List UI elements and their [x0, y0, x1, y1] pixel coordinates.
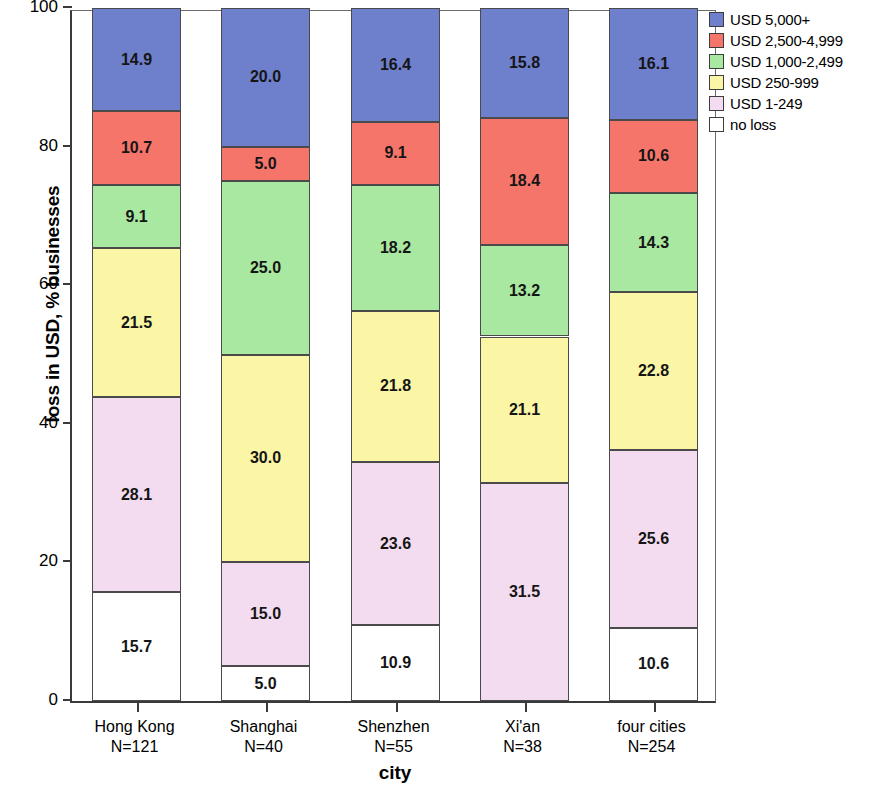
bar-segment[interactable]: 22.8: [609, 292, 698, 450]
legend-label: USD 1-249: [730, 95, 802, 112]
bar-segment-label: 9.1: [125, 208, 147, 226]
bar-segment[interactable]: 16.4: [351, 8, 440, 122]
bar-segment[interactable]: 31.5: [480, 483, 569, 701]
legend-label: USD 5,000+: [730, 11, 810, 28]
bar-segment-label: 30.0: [250, 449, 281, 467]
bar-segment[interactable]: 5.0: [221, 666, 310, 701]
y-axis-title: loss in USD, % businesses: [42, 154, 66, 454]
bar-segment-label: 14.9: [121, 51, 152, 69]
bar-segment[interactable]: 15.0: [221, 562, 310, 666]
y-axis-tick-label: 40: [39, 413, 58, 433]
bar-segment[interactable]: 15.8: [480, 8, 569, 117]
x-axis-label-count: N=254: [572, 737, 732, 757]
legend-item[interactable]: USD 1,000-2,499: [709, 51, 867, 72]
bar-segment[interactable]: 28.1: [92, 397, 181, 592]
stacked-bar: 15.728.121.59.110.714.9: [92, 8, 181, 701]
bar-segment[interactable]: 21.1: [480, 337, 569, 483]
legend-swatch: [709, 96, 724, 111]
bar-segment-label: 21.5: [121, 314, 152, 332]
bar-group[interactable]: 31.521.113.218.415.8: [480, 8, 569, 701]
bar-segment-label: 14.3: [638, 234, 669, 252]
legend-item[interactable]: USD 2,500-4,999: [709, 30, 867, 51]
bar-group[interactable]: 10.625.622.814.310.616.1: [609, 8, 698, 701]
legend: USD 5,000+USD 2,500-4,999USD 1,000-2,499…: [709, 9, 867, 135]
y-axis-tick-label: 100: [30, 0, 58, 17]
bar-segment[interactable]: 9.1: [92, 185, 181, 248]
bar-segment-label: 10.9: [380, 654, 411, 672]
stacked-bar: 5.015.030.025.05.020.0: [221, 8, 310, 701]
plot-area: 020406080100 15.728.121.59.110.714.95.01…: [70, 10, 716, 703]
bar-segment-label: 9.1: [384, 144, 406, 162]
bar-segment[interactable]: 30.0: [221, 355, 310, 563]
bar-segment[interactable]: 13.2: [480, 245, 569, 336]
bar-segment-label: 25.6: [638, 530, 669, 548]
bar-segment[interactable]: 25.0: [221, 181, 310, 354]
x-axis-title: city: [0, 762, 790, 784]
bar-segment-label: 10.7: [121, 139, 152, 157]
bar-segment-label: 15.8: [509, 54, 540, 72]
bar-group[interactable]: 15.728.121.59.110.714.9: [92, 8, 181, 701]
bar-segment-label: 23.6: [380, 535, 411, 553]
y-axis-tick: 60: [63, 283, 72, 285]
bar-segment[interactable]: 21.5: [92, 248, 181, 397]
x-axis-label: four citiesN=254: [572, 717, 732, 757]
bar-segment-label: 16.4: [380, 56, 411, 74]
legend-label: USD 250-999: [730, 74, 819, 91]
bar-segment-label: 18.4: [509, 172, 540, 190]
legend-item[interactable]: USD 250-999: [709, 72, 867, 93]
bar-segment-label: 21.1: [509, 401, 540, 419]
bar-segment-label: 25.0: [250, 259, 281, 277]
y-axis-tick: 0: [63, 699, 72, 701]
x-axis-tick: [266, 701, 268, 712]
bar-segment-label: 22.8: [638, 362, 669, 380]
bar-segment-label: 16.1: [638, 55, 669, 73]
bars-layer: 15.728.121.59.110.714.95.015.030.025.05.…: [72, 11, 715, 701]
bar-segment[interactable]: 18.4: [480, 118, 569, 246]
stacked-bar-chart: loss in USD, % businesses 020406080100 1…: [0, 0, 870, 792]
bar-segment-label: 28.1: [121, 486, 152, 504]
legend-item[interactable]: no loss: [709, 114, 867, 135]
bar-segment[interactable]: 15.7: [92, 592, 181, 701]
stacked-bar: 31.521.113.218.415.8: [480, 8, 569, 701]
x-axis-tick: [137, 701, 139, 712]
bar-segment-label: 15.7: [121, 638, 152, 656]
bar-segment[interactable]: 16.1: [609, 8, 698, 120]
bar-segment-label: 5.0: [254, 675, 276, 693]
x-axis-tick: [654, 701, 656, 712]
bar-segment-label: 31.5: [509, 583, 540, 601]
bar-segment-label: 13.2: [509, 282, 540, 300]
bar-segment[interactable]: 10.6: [609, 628, 698, 701]
stacked-bar: 10.625.622.814.310.616.1: [609, 8, 698, 701]
y-axis-tick: 80: [63, 145, 72, 147]
legend-swatch: [709, 33, 724, 48]
legend-item[interactable]: USD 1-249: [709, 93, 867, 114]
x-axis-label-name: four cities: [572, 717, 732, 737]
bar-segment[interactable]: 5.0: [221, 147, 310, 182]
bar-segment[interactable]: 20.0: [221, 8, 310, 147]
legend-swatch: [709, 117, 724, 132]
legend-item[interactable]: USD 5,000+: [709, 9, 867, 30]
legend-label: USD 2,500-4,999: [730, 32, 843, 49]
bar-segment[interactable]: 21.8: [351, 311, 440, 462]
bar-segment[interactable]: 10.7: [92, 111, 181, 185]
y-axis-tick-label: 20: [39, 551, 58, 571]
bar-segment[interactable]: 14.3: [609, 193, 698, 292]
y-axis-tick-label: 80: [39, 136, 58, 156]
y-axis-tick: 100: [63, 6, 72, 8]
bar-segment[interactable]: 18.2: [351, 185, 440, 311]
bar-segment[interactable]: 14.9: [92, 8, 181, 111]
bar-segment[interactable]: 9.1: [351, 122, 440, 185]
bar-segment-label: 10.6: [638, 655, 669, 673]
bar-group[interactable]: 5.015.030.025.05.020.0: [221, 8, 310, 701]
legend-swatch: [709, 54, 724, 69]
bar-segment[interactable]: 10.9: [351, 625, 440, 701]
legend-swatch: [709, 75, 724, 90]
bar-group[interactable]: 10.923.621.818.29.116.4: [351, 8, 440, 701]
legend-label: no loss: [730, 116, 776, 133]
bar-segment[interactable]: 10.6: [609, 120, 698, 193]
y-axis-tick: 40: [63, 422, 72, 424]
bar-segment-label: 20.0: [250, 68, 281, 86]
bar-segment[interactable]: 23.6: [351, 462, 440, 626]
y-axis-tick-label: 60: [39, 274, 58, 294]
bar-segment[interactable]: 25.6: [609, 450, 698, 627]
